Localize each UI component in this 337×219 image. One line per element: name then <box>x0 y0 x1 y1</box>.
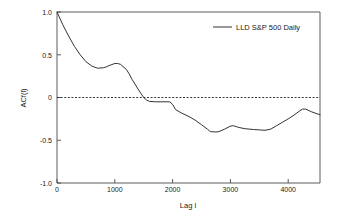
legend-label-lld-sp500-daily: LLD S&P 500 Daily <box>236 23 300 32</box>
y-axis-title: ACf(l) <box>19 88 28 108</box>
legend: LLD S&P 500 Daily <box>213 23 300 32</box>
x-tick-label-0: 0 <box>55 186 59 193</box>
y-tick-label-2: 0 <box>48 94 52 101</box>
acf-chart: 1.0 0.5 0 -0.5 -1.0 0 1000 2000 3000 400… <box>0 0 337 219</box>
y-tick-label-1: 0.5 <box>42 52 52 59</box>
y-axis-tick-labels: 1.0 0.5 0 -0.5 -1.0 <box>40 9 52 187</box>
x-axis-tick-labels: 0 1000 2000 3000 4000 <box>55 186 296 193</box>
y-tick-label-0: 1.0 <box>42 9 52 16</box>
y-tick-label-3: -0.5 <box>40 137 52 144</box>
x-axis-ticks <box>57 179 288 183</box>
x-axis-title: Lag l <box>180 201 197 210</box>
figure-root: 1.0 0.5 0 -0.5 -1.0 0 1000 2000 3000 400… <box>0 0 337 219</box>
y-tick-label-4: -1.0 <box>40 180 52 187</box>
x-tick-label-2: 2000 <box>165 186 181 193</box>
x-tick-label-1: 1000 <box>107 186 123 193</box>
x-tick-label-3: 3000 <box>223 186 239 193</box>
x-tick-label-4: 4000 <box>280 186 296 193</box>
